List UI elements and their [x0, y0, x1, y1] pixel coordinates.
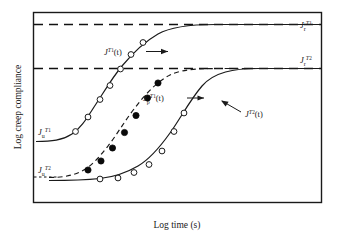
markers-j-t1 — [73, 40, 146, 135]
arrow-j-t1 — [146, 49, 168, 54]
y-axis-title: Log creep compliance — [13, 65, 23, 149]
label-jp-t1: JpT1(t) — [143, 93, 164, 105]
label-jr-t2: JrT2 — [300, 55, 312, 67]
creep-compliance-figure: JT1(t) JpT1(t) JT2(t) JrT1 JrT2 JuT1 JuT… — [0, 0, 339, 240]
label-ju-t1: JuT1 — [38, 127, 51, 139]
label-jr-t1: JrT1 — [300, 20, 312, 32]
curve-jp-t1 — [49, 68, 320, 177]
label-ju-t2: JuT2 — [38, 165, 51, 177]
label-j-t1: JT1(t) — [104, 47, 122, 57]
arrow-j-t2 — [221, 101, 241, 113]
curve-j-t2 — [49, 69, 320, 181]
curve-j-t1 — [36, 25, 320, 142]
label-j-t2: JT2(t) — [245, 109, 263, 119]
x-axis-title: Log time (s) — [154, 220, 201, 231]
arrow-jp-t1 — [187, 95, 204, 100]
plot-frame — [34, 13, 322, 203]
